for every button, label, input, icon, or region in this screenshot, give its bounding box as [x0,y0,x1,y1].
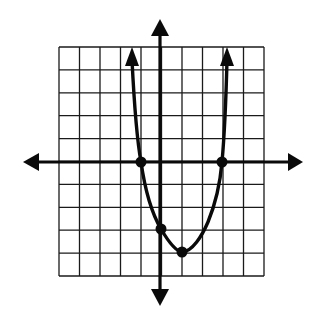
x-intercept-right-point [217,157,228,168]
parabola-curve [132,60,227,252]
y-intercept-point [156,224,167,235]
x-axis-left-arrow-icon [23,153,39,171]
curve-left-arrow-icon [125,47,139,66]
vertex-point [177,247,188,258]
y-axis-up-arrow-icon [151,19,169,36]
y-axis-down-arrow-icon [151,289,169,306]
x-intercept-left-point [136,157,147,168]
x-axis-right-arrow-icon [288,153,303,171]
coordinate-graph [0,0,324,316]
curve-right-arrow-icon [220,47,234,66]
